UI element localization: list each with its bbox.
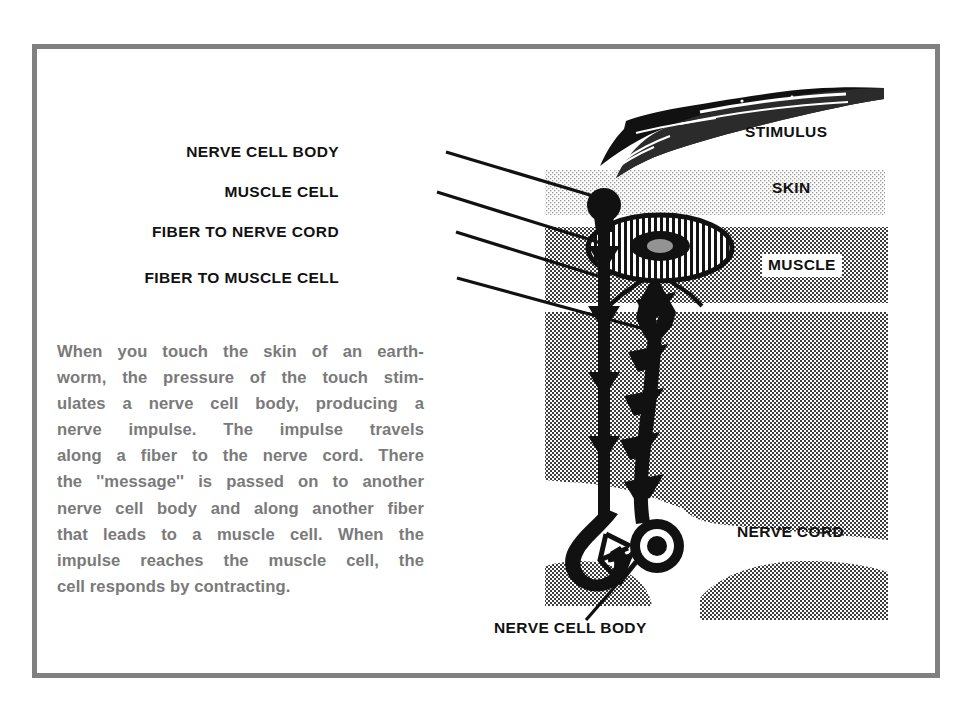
paragraph-line: nerveimpulse.Theimpulsetravels [57, 417, 424, 443]
label-stimulus: STIMULUS [745, 124, 827, 140]
label-nerve-cell-body-bottom: NERVE CELL BODY [494, 620, 647, 636]
paragraph-line: alongafibertothenervecord.There [57, 443, 424, 469]
paragraph-line: ulatesanervecellbody,producinga [57, 391, 424, 417]
figure-root: NERVE CELL BODY MUSCLE CELL FIBER TO NER… [0, 0, 979, 710]
stimulus-stick-icon [600, 87, 884, 178]
label-fiber-to-muscle-cell: FIBER TO MUSCLE CELL [144, 270, 339, 286]
paragraph-line: thatleadstoamusclecell.Whenthe [57, 522, 424, 548]
paragraph-line: cell responds by contracting. [57, 574, 424, 600]
paragraph-line: impulsereachesthemusclecell,the [57, 548, 424, 574]
paragraph-line: Whenyoutouchtheskinofanearth- [57, 339, 424, 365]
label-nerve-cord: NERVE CORD [737, 524, 844, 540]
label-skin: SKIN [772, 180, 811, 196]
label-muscle: MUSCLE [762, 254, 842, 277]
body-paragraph: Whenyoutouchtheskinofanearth-worm,thepre… [57, 339, 424, 600]
label-nerve-cell-body-top: NERVE CELL BODY [186, 144, 339, 160]
paragraph-line: the''message''ispassedontoanother [57, 469, 424, 495]
paragraph-line: nervecellbodyandalonganotherfiber [57, 496, 424, 522]
label-fiber-to-nerve-cord: FIBER TO NERVE CORD [152, 224, 339, 240]
label-muscle-cell: MUSCLE CELL [224, 184, 339, 200]
paragraph-line: worm,thepressureofthetouchstim- [57, 365, 424, 391]
